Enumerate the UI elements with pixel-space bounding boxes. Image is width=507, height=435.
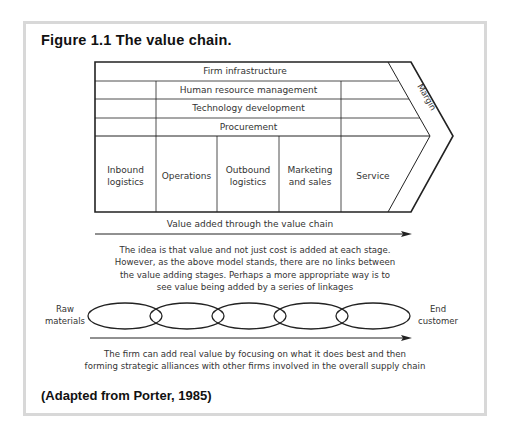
value-added-label: Value added through the value chain — [95, 218, 405, 230]
source-citation: (Adapted from Porter, 1985) — [41, 388, 212, 403]
primary-service: Service — [341, 170, 405, 182]
support-procurement: Procurement — [156, 121, 341, 133]
primary-operations: Operations — [156, 170, 217, 182]
support-firm-infrastructure: Firm infrastructure — [95, 65, 395, 77]
raw-materials-label: Raw materials — [40, 303, 90, 327]
conclusion-text: The firm can add real value by focusing … — [40, 348, 470, 373]
explanation-text: The idea is that value and not just cost… — [60, 244, 450, 293]
primary-marketing-sales: Marketing and sales — [279, 164, 341, 188]
primary-inbound-logistics: Inbound logistics — [95, 164, 156, 188]
margin-label: Margin — [415, 82, 438, 112]
support-hrm: Human resource management — [156, 84, 341, 96]
support-technology-development: Technology development — [156, 102, 341, 114]
end-customer-label: End customer — [412, 303, 464, 327]
primary-outbound-logistics: Outbound logistics — [217, 164, 279, 188]
